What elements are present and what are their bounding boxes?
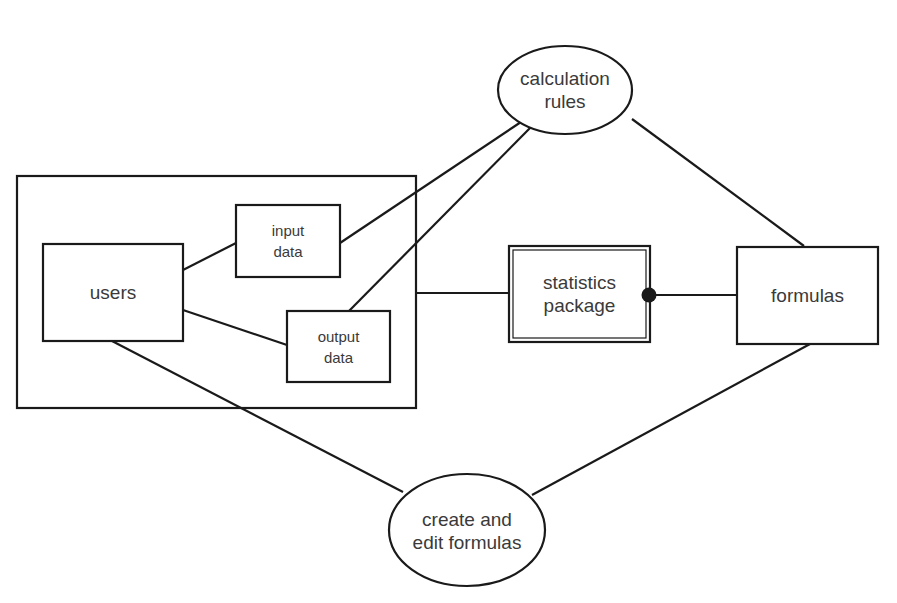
users-line-1: users	[90, 281, 136, 304]
edge-input-data-calculation-rules	[340, 120, 524, 243]
output-data-label: output data	[287, 311, 390, 382]
output-data-line-1: output	[318, 326, 360, 347]
input-data-line-1: input	[272, 220, 305, 241]
edge-users-input-data	[183, 243, 236, 270]
statistics-package-line-1: statistics	[543, 271, 616, 294]
create-edit-formulas-label: create and edit formulas	[389, 500, 545, 562]
formulas-line-1: formulas	[771, 284, 844, 307]
statistics-package-label: statistics package	[509, 246, 650, 342]
edge-calculation-rules-formulas	[632, 119, 804, 246]
calculation-rules-line-1: calculation	[520, 67, 610, 90]
calculation-rules-line-2: rules	[544, 90, 585, 113]
create-edit-formulas-line-2: edit formulas	[413, 531, 522, 554]
output-data-line-2: data	[324, 347, 353, 368]
users-label: users	[43, 244, 183, 341]
create-edit-formulas-line-1: create and	[422, 508, 512, 531]
formulas-label: formulas	[737, 247, 878, 344]
edge-users-output-data	[183, 310, 287, 345]
input-data-label: input data	[236, 205, 340, 277]
input-data-line-2: data	[273, 241, 302, 262]
statistics-package-line-2: package	[544, 294, 616, 317]
edge-formulas-create-edit-formulas	[532, 344, 810, 495]
calculation-rules-label: calculation rules	[498, 60, 632, 120]
